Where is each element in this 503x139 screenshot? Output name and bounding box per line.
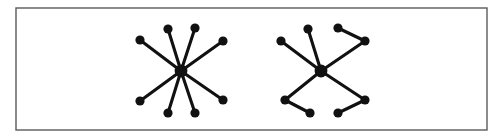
graph-hub-node	[315, 65, 328, 78]
graph-leaf-node	[190, 23, 199, 32]
graph-nodes	[135, 23, 227, 117]
graph-leaf-node	[163, 24, 172, 33]
figure-frame	[16, 8, 487, 130]
graph-edge	[321, 41, 365, 71]
graph-leaf-node	[360, 36, 369, 45]
graph-leaf-node	[333, 108, 342, 117]
graph-leaf-node	[163, 108, 172, 117]
graph-leaf-node	[360, 95, 369, 104]
graph-leaf-node	[218, 95, 227, 104]
graph-edge	[321, 71, 365, 100]
star-graph	[135, 23, 227, 117]
graph-edge	[285, 71, 321, 100]
graph-leaf-node	[303, 24, 312, 33]
graphs-layer	[135, 23, 369, 117]
graph-leaf-node	[333, 23, 342, 32]
figure-root	[0, 0, 503, 139]
graph-leaf-node	[190, 108, 199, 117]
spider-graph	[276, 23, 369, 117]
graph-leaf-node	[135, 96, 144, 105]
graph-leaf-node	[305, 108, 314, 117]
graph-hub-node	[175, 65, 188, 78]
graph-leaf-node	[135, 35, 144, 44]
graph-leaf-node	[276, 36, 285, 45]
graph-diagram-canvas	[0, 0, 503, 139]
graph-leaf-node	[218, 36, 227, 45]
graph-leaf-node	[280, 95, 289, 104]
